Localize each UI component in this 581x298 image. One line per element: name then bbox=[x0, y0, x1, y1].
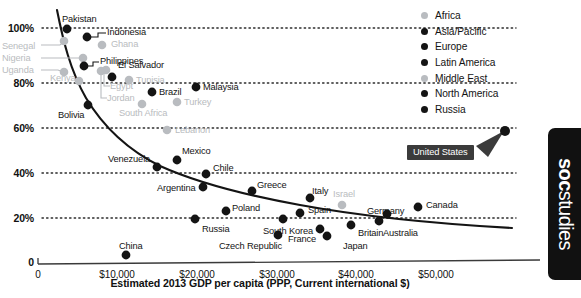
label-pakistan: Pakistan bbox=[62, 14, 96, 24]
legend-dot-icon bbox=[421, 90, 428, 97]
point-bolivia bbox=[84, 101, 93, 110]
point-greece bbox=[248, 187, 257, 196]
label-tunisia: Tunisia bbox=[136, 75, 165, 85]
point-spain bbox=[296, 209, 305, 218]
point-argentina bbox=[199, 183, 208, 192]
x-axis bbox=[38, 258, 540, 264]
chart-root: gppgpg bbox=[0, 0, 581, 298]
x-axis-title: Estimated 2013 GDP per capita (PPP, Curr… bbox=[0, 277, 520, 289]
legend-dot-icon bbox=[421, 43, 428, 50]
label-china: China bbox=[119, 241, 143, 251]
callout-united-states: United States bbox=[407, 145, 474, 160]
label-egypt: Egypt bbox=[110, 81, 133, 91]
label-malaysia: Malaysia bbox=[203, 82, 238, 92]
legend-label: Africa bbox=[435, 10, 460, 21]
label-poland: Poland bbox=[232, 203, 260, 213]
legend-item-russia[interactable]: Russia bbox=[421, 102, 571, 118]
label-greece: Greece bbox=[257, 180, 287, 190]
point-britain bbox=[347, 221, 356, 230]
label-south-africa: South Africa bbox=[119, 108, 167, 118]
point-poland bbox=[222, 207, 231, 216]
leader-uganda bbox=[41, 70, 63, 72]
ytick-0: 0 bbox=[0, 256, 34, 268]
point-venezuela bbox=[153, 163, 162, 172]
point-brazil bbox=[148, 88, 157, 97]
label-germany: Germany bbox=[367, 206, 404, 216]
label-argentina: Argentina bbox=[157, 183, 195, 193]
point-nigeria bbox=[79, 54, 88, 63]
legend-dot-icon bbox=[421, 12, 428, 19]
legend-dot-icon bbox=[421, 106, 428, 113]
legend-item-latin-america[interactable]: Latin America bbox=[421, 55, 571, 71]
point-south-korea bbox=[279, 215, 288, 224]
socstudies-brand-text: socstudies bbox=[553, 158, 576, 250]
point-mexico bbox=[173, 156, 182, 165]
ytick-80: 80% bbox=[0, 77, 34, 89]
point-indonesia bbox=[83, 33, 92, 42]
label-czech-republic: Czech Republic bbox=[219, 241, 282, 251]
point-france bbox=[316, 225, 325, 234]
label-italy: Italy bbox=[312, 186, 328, 196]
socstudies-brand-tab[interactable]: socstudies bbox=[548, 128, 581, 280]
label-lebanon: Lebanon bbox=[175, 125, 210, 135]
ytick-20: 20% bbox=[0, 212, 34, 224]
legend-item-middle-east[interactable]: Middle East bbox=[421, 70, 571, 86]
label-brazil: Brazil bbox=[159, 87, 181, 97]
point-china bbox=[122, 251, 131, 260]
point-senegal bbox=[60, 37, 69, 46]
legend-dot-icon bbox=[421, 59, 428, 66]
point-ghana bbox=[98, 41, 107, 50]
point-lebanon bbox=[163, 126, 172, 135]
ytick-60: 60% bbox=[0, 122, 34, 134]
legend-dot-icon bbox=[421, 75, 428, 82]
label-uganda: Uganda bbox=[2, 65, 34, 75]
point-philippines bbox=[80, 62, 89, 71]
legend-label: North America bbox=[435, 88, 498, 99]
point-canada bbox=[414, 203, 423, 212]
label-bolivia: Bolivia bbox=[58, 110, 84, 120]
legend-label: Russia bbox=[435, 104, 466, 115]
label-el-salvador: El Salvador bbox=[118, 60, 164, 70]
label-senegal: Senegal bbox=[2, 41, 35, 51]
point-chile bbox=[202, 170, 211, 179]
leader-indonesia bbox=[89, 33, 106, 37]
label-canada: Canada bbox=[426, 200, 458, 210]
legend-dot-icon bbox=[421, 28, 428, 35]
legend-item-north-america[interactable]: North America bbox=[421, 86, 571, 102]
label-nigeria: Nigeria bbox=[2, 53, 30, 63]
ytick-40: 40% bbox=[0, 167, 34, 179]
label-chile: Chile bbox=[213, 163, 233, 173]
label-kenya: Kenya bbox=[50, 73, 76, 83]
point-turkey bbox=[173, 98, 182, 107]
label-russia: Russia bbox=[202, 224, 230, 234]
legend-item-asia-pacific[interactable]: Asia/Pacific bbox=[421, 24, 571, 40]
label-indonesia: Indonesia bbox=[107, 27, 146, 37]
point-united-states bbox=[500, 126, 510, 136]
label-israel: Israel bbox=[333, 189, 355, 199]
ytick-100: 100% bbox=[0, 22, 34, 34]
brand-bold-part: soc bbox=[554, 158, 576, 191]
point-australia bbox=[375, 217, 384, 226]
label-spain: Spain bbox=[308, 205, 331, 215]
legend-label: Latin America bbox=[435, 57, 495, 68]
legend-label: Middle East bbox=[435, 73, 487, 84]
point-israel bbox=[338, 201, 347, 210]
label-turkey: Turkey bbox=[184, 97, 211, 107]
label-venezuela: Venezuela bbox=[108, 154, 150, 164]
label-jordan: Jordan bbox=[107, 93, 135, 103]
label-france: France bbox=[288, 234, 316, 244]
label-australia: Australia bbox=[383, 228, 418, 238]
point-japan bbox=[323, 232, 332, 241]
callout-pointer bbox=[476, 131, 504, 157]
label-ghana: Ghana bbox=[111, 39, 138, 49]
legend-item-africa[interactable]: Africa bbox=[421, 8, 571, 24]
legend-label: Europe bbox=[435, 41, 467, 52]
legend-item-europe[interactable]: Europe bbox=[421, 39, 571, 55]
brand-light-part: studies bbox=[554, 191, 576, 250]
label-japan: Japan bbox=[343, 241, 368, 251]
point-south-africa bbox=[138, 100, 147, 109]
point-jordan bbox=[97, 67, 106, 76]
label-mexico: Mexico bbox=[182, 146, 211, 156]
legend: Africa Asia/Pacific Europe Latin America… bbox=[421, 8, 571, 117]
point-malaysia bbox=[192, 83, 201, 92]
